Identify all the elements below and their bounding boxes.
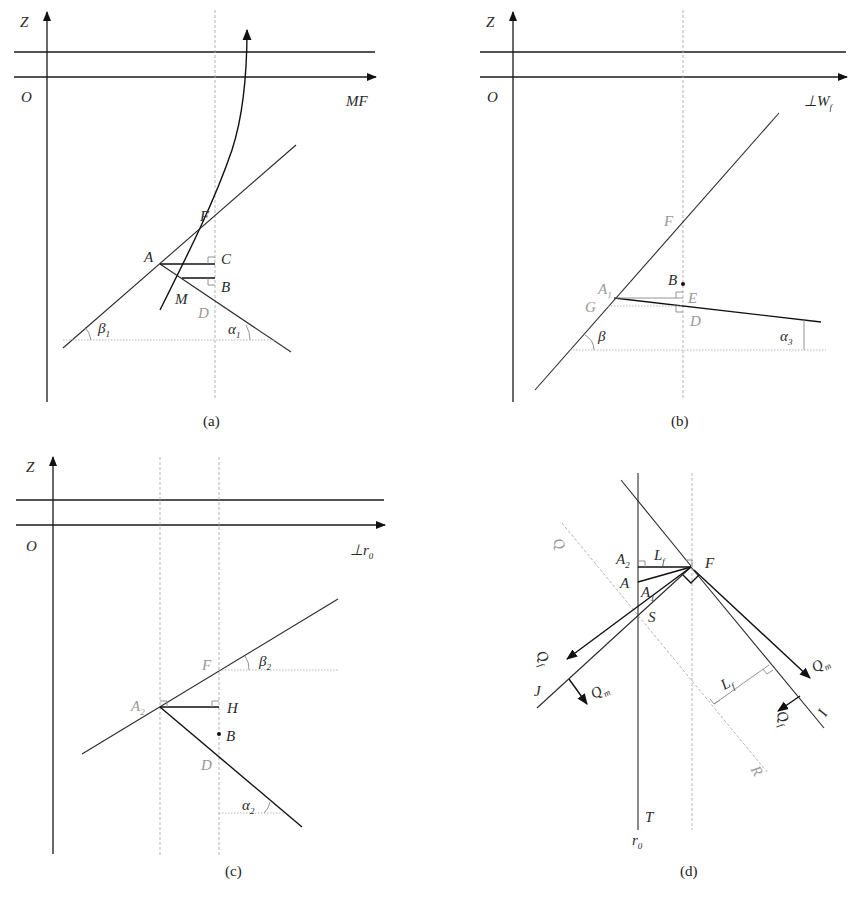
right-angle-D xyxy=(676,306,683,312)
label-E: E xyxy=(687,290,697,306)
caption-c: (c) xyxy=(225,863,242,880)
label-Lf-top: Lf xyxy=(653,547,666,566)
falling-line xyxy=(614,298,821,322)
label-Lf-perp: Lf xyxy=(717,673,738,696)
right-angle-C xyxy=(208,257,215,264)
label-F: F xyxy=(663,213,674,229)
arrow-Qf-right xyxy=(778,696,800,711)
label-F: F xyxy=(704,555,715,571)
right-angle-F-large xyxy=(683,575,699,583)
line-I xyxy=(691,567,824,728)
label-J: J xyxy=(534,683,542,699)
right-angle-A2 xyxy=(638,561,645,567)
falling-line xyxy=(160,264,291,352)
label-origin: O xyxy=(21,89,32,105)
point-B xyxy=(681,282,685,286)
label-A2: A2 xyxy=(130,698,145,717)
panel-c: Z O ⊥r0 F A2 H B D β2 α2 (c) xyxy=(16,457,385,880)
label-G: G xyxy=(585,299,596,315)
caption-d: (d) xyxy=(680,863,698,880)
label-D: D xyxy=(197,305,209,321)
label-T: T xyxy=(645,809,655,825)
label-Qf-right: Qf xyxy=(770,708,794,730)
label-r0: r0 xyxy=(632,832,643,851)
right-angle-B xyxy=(208,278,215,285)
label-M: M xyxy=(174,291,189,307)
label-B: B xyxy=(226,728,235,744)
label-Qm-right: Qm xyxy=(808,653,833,678)
label-beta: β xyxy=(597,328,606,344)
label-Q: Q xyxy=(550,535,569,553)
label-A2: A2 xyxy=(615,551,630,570)
trajectory-curve xyxy=(160,30,247,310)
label-origin: O xyxy=(487,89,498,105)
point-B xyxy=(217,732,221,736)
label-C: C xyxy=(221,251,232,267)
label-z: Z xyxy=(20,14,29,30)
label-D: D xyxy=(200,757,212,773)
line-J xyxy=(537,567,691,708)
angle-beta-arc xyxy=(585,335,594,350)
rising-line xyxy=(535,113,779,390)
angle-beta1-arc xyxy=(85,327,91,340)
label-B: B xyxy=(221,279,230,295)
label-I: I xyxy=(814,706,831,720)
right-angle-L1 xyxy=(763,669,773,674)
angle-beta2-arc xyxy=(245,656,249,670)
label-R: R xyxy=(747,762,766,779)
label-beta2: β2 xyxy=(258,653,271,672)
angle-alpha1-arc xyxy=(246,325,250,340)
label-Qm-left: Qm xyxy=(588,679,613,704)
panel-a: Z O MF F A C B M D β1 α1 (a) xyxy=(14,10,376,430)
label-A: A xyxy=(619,575,630,591)
label-A1: A1 xyxy=(597,281,612,300)
label-Qf-left: Qf xyxy=(531,648,555,670)
label-F: F xyxy=(201,657,212,673)
label-H: H xyxy=(226,700,239,716)
label-z: Z xyxy=(26,459,35,475)
figure-canvas: Z O MF F A C B M D β1 α1 (a) Z O ⊥Wf F A… xyxy=(0,0,866,902)
caption-b: (b) xyxy=(671,413,689,430)
label-D: D xyxy=(689,313,701,329)
rising-line xyxy=(63,145,296,348)
label-A: A xyxy=(143,249,154,265)
label-x-axis: MF xyxy=(345,93,368,109)
label-B: B xyxy=(668,272,677,288)
label-origin: O xyxy=(26,538,37,554)
label-S: S xyxy=(648,609,656,625)
label-alpha1: α1 xyxy=(228,321,240,340)
angle-alpha2-arc xyxy=(264,802,270,813)
label-alpha3: α3 xyxy=(780,328,793,347)
label-F: F xyxy=(199,208,210,224)
label-z: Z xyxy=(486,14,495,30)
right-angle-H xyxy=(212,701,219,707)
caption-a: (a) xyxy=(203,413,220,430)
panel-b: Z O ⊥Wf F A1 G B E D β α3 (b) xyxy=(480,10,847,430)
arrow-Qm-left xyxy=(569,679,587,704)
label-beta1: β1 xyxy=(97,320,110,339)
right-angle-E xyxy=(676,292,683,298)
arrow-Qm-right xyxy=(694,570,810,678)
label-x-axis: ⊥Wf xyxy=(804,93,834,112)
panel-d: A2 Lf F A A1 S Q Qf J Qm Qm Lf Qf I R T … xyxy=(531,473,834,880)
rising-line xyxy=(82,599,338,754)
label-x-axis: ⊥r0 xyxy=(350,542,374,561)
right-angle-L2 xyxy=(710,699,720,704)
falling-line xyxy=(160,707,302,827)
